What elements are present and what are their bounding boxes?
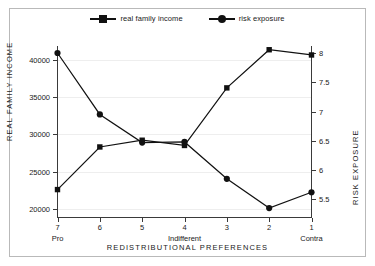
x-axis-tick [269, 218, 270, 222]
data-point-square [309, 52, 314, 57]
y-axis-right-tick [312, 170, 316, 171]
y-axis-right-tick-label: 6.5 [319, 136, 329, 145]
y-axis-right-tick-label: 5.5 [319, 195, 329, 204]
data-point-circle [139, 139, 145, 145]
data-point-circle [224, 176, 230, 182]
y-axis-left-tick-label: 25000 [29, 167, 50, 176]
y-axis-right-tick [312, 141, 316, 142]
y-axis-left-tick-label: 20000 [29, 205, 50, 214]
y-axis-right-tick-label: 7.5 [319, 78, 329, 87]
y-axis-left-title: REAL FAMILY INCOME [5, 42, 14, 141]
x-axis-tick-label: 1 [309, 223, 313, 232]
y-axis-right-tick [312, 112, 316, 113]
x-axis-tick [100, 218, 101, 222]
y-axis-right-tick [312, 199, 316, 200]
y-axis-left-tick-label: 30000 [29, 130, 50, 139]
data-point-square [55, 187, 60, 192]
y-axis-right-tick-label: 8 [319, 49, 323, 58]
y-axis-left-tick-label: 35000 [29, 92, 50, 101]
x-axis-tick [312, 218, 313, 222]
data-point-circle [266, 205, 272, 211]
y-axis-right-title: RISK EXPOSURE [351, 129, 360, 205]
x-axis-tick [58, 218, 59, 222]
data-point-square [266, 47, 271, 52]
data-point-circle [97, 111, 103, 117]
data-point-circle [54, 50, 60, 56]
x-axis-tick [227, 218, 228, 222]
y-axis-right-tick-label: 7 [319, 107, 323, 116]
x-axis-tick-label: 5 [140, 223, 144, 232]
x-axis-sublabel: Indifferent [168, 234, 201, 243]
x-axis-sublabel: Pro [52, 234, 64, 243]
x-axis-tick-label: 3 [225, 223, 229, 232]
data-point-circle [181, 139, 187, 145]
x-axis-tick [142, 218, 143, 222]
x-axis-title: REDISTRIBUTIONAL PREFERENCES [0, 243, 375, 252]
series-layer [57, 46, 312, 218]
y-axis-right-tick [312, 82, 316, 83]
chart-figure: real family income risk exposure REAL FA… [0, 0, 375, 266]
data-point-circle [308, 189, 314, 195]
data-point-square [97, 144, 102, 149]
series-line-risk-exposure [58, 53, 312, 208]
x-axis-sublabel: Contra [300, 234, 323, 243]
x-axis-tick-label: 6 [98, 223, 102, 232]
plot-area: 2000025000300003500040000 5.566.577.58 7… [57, 46, 312, 218]
data-point-square [224, 85, 229, 90]
series-line-real-family-income [58, 50, 312, 190]
y-axis-left-tick-label: 40000 [29, 55, 50, 64]
y-axis-right-tick-label: 6 [319, 166, 323, 175]
x-axis-tick-label: 7 [55, 223, 59, 232]
x-axis-tick [185, 218, 186, 222]
x-axis-tick-label: 2 [267, 223, 271, 232]
x-axis-tick-label: 4 [182, 223, 186, 232]
